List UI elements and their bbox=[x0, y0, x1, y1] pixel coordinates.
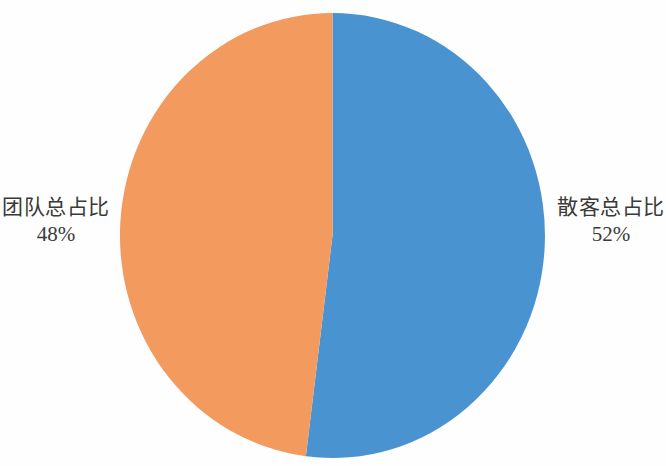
slice-label-tuandui-value: 48% bbox=[0, 223, 112, 246]
slice-label-tuandui: 团队总占比 48% bbox=[0, 196, 112, 245]
slice-label-sanke-name: 散客总占比 bbox=[556, 196, 666, 219]
slice-label-sanke-value: 52% bbox=[556, 223, 666, 246]
pie-chart-figure: 团队总占比 48% 散客总占比 52% bbox=[0, 0, 666, 466]
slice-label-sanke: 散客总占比 52% bbox=[556, 196, 666, 245]
pie-slice-sanke[interactable] bbox=[306, 13, 545, 458]
pie-slices bbox=[120, 13, 545, 458]
slice-label-tuandui-name: 团队总占比 bbox=[0, 196, 112, 219]
pie-slice-tuandui[interactable] bbox=[120, 13, 333, 456]
